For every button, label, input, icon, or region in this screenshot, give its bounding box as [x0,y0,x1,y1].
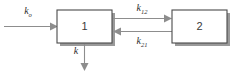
rate-label-input: ko [24,5,32,18]
rate-label-k21-sub: 21 [141,41,148,48]
k12-arrow-head [164,15,172,23]
compartment-box-2: 2 [172,10,230,46]
rate-label-k12-sub: 12 [141,8,148,15]
rate-label-input-sub: o [29,11,33,18]
compartment-box-1: 1 [57,10,115,46]
transfer-flow-2-to-1 [113,28,172,36]
rate-label-k12: k12 [137,2,149,15]
input-flow-arrow [4,23,58,31]
diagram-canvas: ko 1 k12 k21 2 [0,0,232,72]
compartment-1-label: 1 [81,20,87,32]
elimination-flow-arrow [81,44,89,71]
elimination-arrow-head [81,63,89,71]
transfer-flow-1-to-2 [113,15,172,23]
rate-label-k21: k21 [137,35,148,48]
compartment-2-label: 2 [196,20,202,32]
rate-label-elimination: k [74,45,79,56]
compartment-model-diagram: ko 1 k12 k21 2 [0,0,232,72]
rate-label-elimination-base: k [74,45,79,56]
